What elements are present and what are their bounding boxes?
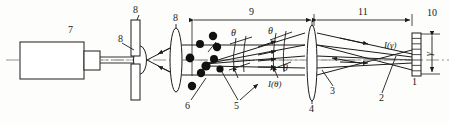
callout-label-8-aperture: 8	[133, 5, 138, 15]
callout-label-7: 7	[68, 25, 73, 35]
callout-label-5: 5	[234, 101, 239, 111]
callout-label-8-beam-expander: 8	[118, 34, 123, 44]
optical-diagram-svg	[0, 0, 449, 123]
angle-label-theta-1: θ	[231, 28, 236, 38]
intensity-label-i-gamma: I(γ)	[384, 41, 397, 50]
callout-label-2: 2	[379, 93, 384, 103]
figure-canvas: 7 8 8 8 6 5 4 3 2 1 10 9 11 γ θ θ θ I(θ)…	[0, 0, 449, 123]
laser-source	[20, 42, 100, 79]
dimension-label-9: 9	[249, 7, 254, 17]
fourier-lens	[307, 25, 317, 101]
callout-label-10: 10	[427, 8, 437, 18]
detector-array	[412, 33, 421, 76]
intensity-label-i-theta: I(θ)	[268, 80, 281, 89]
converging-beam	[317, 33, 412, 75]
callout-label-3: 3	[330, 86, 335, 96]
callout-label-1: 1	[412, 77, 417, 87]
dimension-label-gamma: γ	[424, 52, 434, 56]
angle-label-theta-3: θ	[283, 63, 288, 73]
callout-label-4: 4	[309, 104, 314, 114]
particle-cloud	[186, 32, 224, 90]
callout-label-6: 6	[185, 101, 190, 111]
dimension-label-11: 11	[358, 7, 368, 17]
callout-label-8-collimator: 8	[173, 13, 178, 23]
angle-label-theta-2: θ	[268, 26, 273, 36]
collimating-lens	[170, 28, 182, 92]
